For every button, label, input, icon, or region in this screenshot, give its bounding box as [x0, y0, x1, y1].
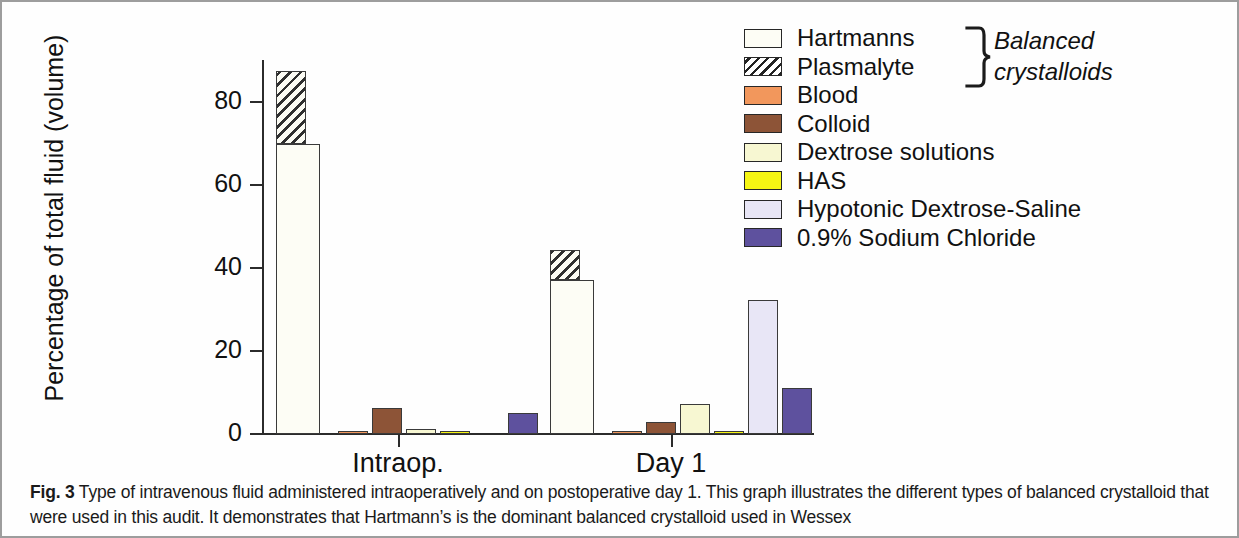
- y-tick-mark: [250, 184, 263, 186]
- y-tick-mark: [250, 101, 263, 103]
- legend-swatch-icon: [744, 228, 782, 247]
- legend-item[interactable]: 0.9% Sodium Chloride: [744, 224, 1224, 253]
- legend-label: Plasmalyte: [797, 55, 914, 79]
- y-tick-mark: [250, 350, 263, 352]
- bar-hartmanns: [550, 280, 594, 434]
- legend-label: Hypotonic Dextrose-Saline: [797, 197, 1081, 221]
- bar-blood: [338, 431, 368, 435]
- legend-swatch-icon: [744, 86, 782, 105]
- x-tick-mark: [671, 435, 673, 447]
- bar-dextrose-solutions: [406, 429, 436, 434]
- caption-body: Type of intravenous fluid administered i…: [30, 482, 1209, 527]
- y-tick-label: 0: [198, 420, 242, 445]
- legend-label: 0.9% Sodium Chloride: [797, 226, 1036, 250]
- bar-0-9-sodium-chloride: [508, 413, 538, 434]
- bar-colloid: [646, 422, 676, 434]
- bar-has: [714, 431, 744, 435]
- legend-label: Hartmanns: [797, 26, 914, 50]
- legend-swatch-icon: [744, 143, 782, 162]
- caption-figure-label: Fig. 3: [30, 482, 75, 502]
- legend-label: Dextrose solutions: [797, 140, 994, 164]
- figure-caption: Fig. 3 Type of intravenous fluid adminis…: [2, 472, 1239, 538]
- legend-item[interactable]: Dextrose solutions: [744, 138, 1224, 167]
- figure-container: Percentage of total fluid (volume) 02040…: [0, 0, 1239, 538]
- bar-chart: Percentage of total fluid (volume) 02040…: [2, 2, 1239, 472]
- bar-hypotonic-dextrose-saline: [748, 300, 778, 434]
- legend-swatch-icon: [744, 114, 782, 133]
- caption-paragraph: Fig. 3 Type of intravenous fluid adminis…: [30, 480, 1213, 531]
- y-tick-label: 60: [198, 171, 242, 196]
- legend-label: Blood: [797, 83, 858, 107]
- balanced-crystalloids-annotation: Balanced crystalloids: [994, 26, 1113, 87]
- y-tick-mark: [250, 433, 263, 435]
- legend-label: Colloid: [797, 112, 870, 136]
- legend-swatch-icon: [744, 57, 782, 76]
- bar-colloid: [372, 408, 402, 434]
- y-tick-mark: [250, 267, 263, 269]
- y-tick-label: 80: [198, 88, 242, 113]
- bar-0-9-sodium-chloride: [782, 388, 812, 434]
- legend-item[interactable]: Hypotonic Dextrose-Saline: [744, 195, 1224, 224]
- legend-swatch-icon: [744, 171, 782, 190]
- bar-dextrose-solutions: [680, 404, 710, 434]
- bar-plasmalyte: [550, 250, 580, 280]
- legend-label: HAS: [797, 169, 846, 193]
- legend-item[interactable]: HAS: [744, 167, 1224, 196]
- bar-hartmanns: [276, 144, 320, 435]
- brace-bracket-icon: [965, 26, 991, 88]
- annotation-line-1: Balanced: [994, 26, 1113, 57]
- y-tick-label: 20: [198, 337, 242, 362]
- legend-swatch-icon: [744, 29, 782, 48]
- legend-swatch-icon: [744, 200, 782, 219]
- x-tick-mark: [398, 435, 400, 447]
- y-axis-title: Percentage of total fluid (volume): [40, 62, 69, 402]
- bar-blood: [612, 431, 642, 435]
- legend-item[interactable]: Colloid: [744, 110, 1224, 139]
- annotation-line-2: crystalloids: [994, 57, 1113, 88]
- bar-has: [440, 431, 470, 435]
- y-axis-line: [262, 60, 264, 435]
- y-tick-label: 40: [198, 254, 242, 279]
- bar-plasmalyte: [276, 71, 306, 144]
